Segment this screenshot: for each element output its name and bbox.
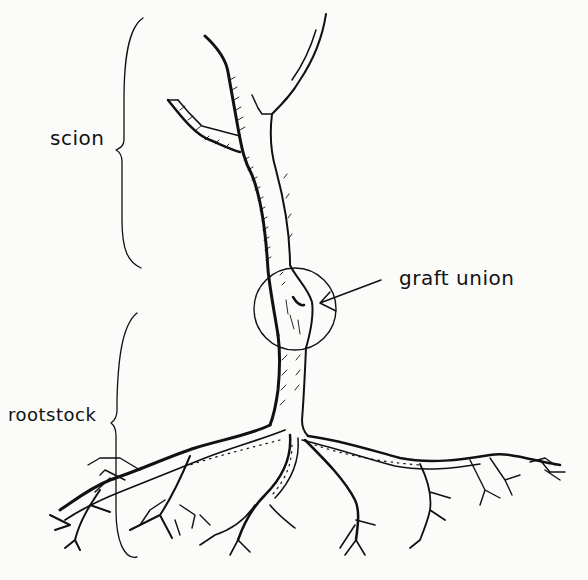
graft-mark — [293, 297, 304, 305]
scion-label: scion — [50, 126, 104, 150]
root-branch-6 — [470, 458, 565, 505]
root-right-main — [308, 436, 560, 465]
rootstock-brace — [111, 313, 137, 557]
root-branch-2 — [50, 490, 110, 550]
graft-union-label: graft union — [399, 266, 514, 290]
root-branch-4 — [270, 505, 375, 555]
grafted-tree-diagram: scion graft union rootstock — [0, 0, 588, 580]
rootstock-trunk-right — [302, 348, 308, 436]
scion-brace — [116, 18, 143, 268]
rootstock-label: rootstock — [8, 404, 96, 425]
root-left-main — [60, 425, 270, 510]
scion-stub — [252, 95, 272, 114]
rootstock-hatching — [280, 355, 300, 405]
root-branch-3 — [200, 505, 255, 555]
tree-illustration — [0, 0, 588, 580]
root-center-right — [305, 440, 358, 540]
scion-left-branch-upper — [178, 100, 240, 136]
graft-union-bump — [290, 265, 313, 348]
graft-union-circle — [254, 268, 336, 350]
root-dots — [190, 440, 420, 495]
scion-trunk-right — [271, 14, 326, 265]
rootstock-trunk-left — [270, 335, 280, 425]
root-branch-5 — [410, 464, 450, 548]
graft-union-arrow — [320, 280, 381, 311]
scion-trunk-left — [205, 36, 278, 335]
root-branch-8 — [140, 500, 210, 535]
root-center-down-b — [275, 438, 298, 498]
root-left-main-lower — [65, 430, 285, 520]
root-center-down — [238, 435, 290, 540]
